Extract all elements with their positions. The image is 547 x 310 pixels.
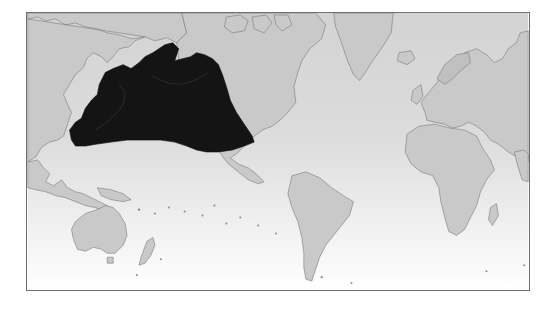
landmass-tasmania	[107, 257, 113, 263]
world-map	[26, 12, 530, 291]
landmass-arctic-islands	[224, 15, 292, 33]
map-canvas	[27, 13, 529, 290]
